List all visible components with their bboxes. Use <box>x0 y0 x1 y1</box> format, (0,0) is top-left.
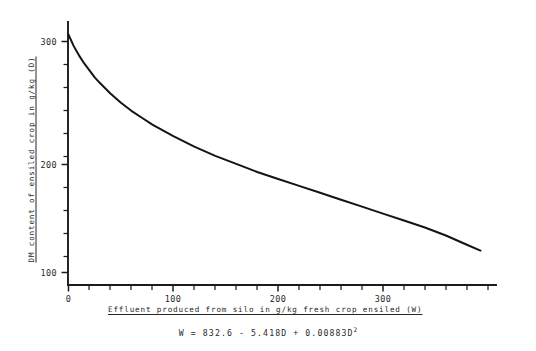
x-tick-label-0: 0 <box>66 294 72 304</box>
equation-exponent: 2 <box>354 326 358 333</box>
y-axis-title: DM content of ensiled crop in g/kg (D) <box>27 45 36 275</box>
figure-chart-effluent-vs-dm: 300 200 100 0 100 200 300 Effluent produ… <box>0 0 536 351</box>
data-series-curve <box>69 35 481 251</box>
x-tick-label-300: 300 <box>375 294 392 304</box>
y-tick-label-300: 300 <box>40 37 57 47</box>
axis-lines <box>68 22 496 285</box>
regression-equation: W = 832.6 - 5.418D + 0.00883D2 <box>0 326 536 338</box>
x-tick-labels: 0 100 200 300 <box>66 294 392 304</box>
y-axis-ticks <box>62 42 69 273</box>
x-tick-label-200: 200 <box>270 294 287 304</box>
axes-group <box>68 22 496 285</box>
x-tick-label-100: 100 <box>165 294 182 304</box>
y-tick-labels: 300 200 100 <box>40 37 57 278</box>
y-tick-label-200: 200 <box>40 160 57 170</box>
x-axis-title: Effluent produced from silo in g/kg fres… <box>108 305 422 314</box>
chart-plot-area: 300 200 100 0 100 200 300 <box>0 0 536 351</box>
x-axis-ticks <box>69 285 489 292</box>
y-tick-label-100: 100 <box>40 268 57 278</box>
equation-text: W = 832.6 - 5.418D + 0.00883D <box>179 328 354 338</box>
